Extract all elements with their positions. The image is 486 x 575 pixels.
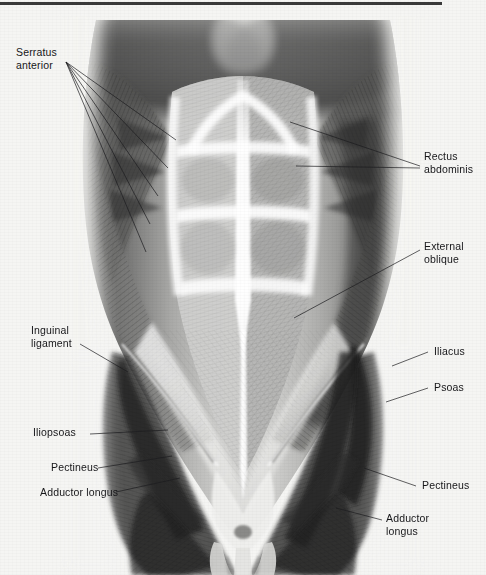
label-adductor-longus-right: Adductor longus — [386, 512, 429, 537]
label-external-oblique: External oblique — [424, 240, 464, 265]
label-pectineus-right: Pectineus — [422, 479, 469, 492]
label-inguinal-ligament-line1: Inguinal — [31, 324, 72, 337]
header-rule — [0, 2, 442, 5]
label-external-oblique-line2: oblique — [424, 253, 464, 266]
label-adductor-longus-right-line1: Adductor — [386, 512, 429, 525]
label-serratus-anterior-line2: anterior — [16, 59, 57, 72]
label-inguinal-ligament: Inguinal ligament — [31, 324, 72, 349]
label-rectus-abdominis: Rectus abdominis — [424, 150, 473, 175]
label-adductor-longus-right-line2: longus — [386, 525, 429, 538]
label-rectus-abdominis-line2: abdominis — [424, 163, 473, 176]
label-adductor-longus-left: Adductor longus — [40, 486, 118, 499]
label-rectus-abdominis-line1: Rectus — [424, 150, 473, 163]
label-external-oblique-line1: External — [424, 240, 464, 253]
label-iliacus: Iliacus — [434, 345, 465, 358]
label-psoas: Psoas — [434, 381, 464, 394]
illustration-page: Serratus anterior Rectus abdominis Exter… — [0, 0, 486, 575]
label-serratus-anterior: Serratus anterior — [16, 46, 57, 71]
label-serratus-anterior-line1: Serratus — [16, 46, 57, 59]
label-inguinal-ligament-line2: ligament — [31, 337, 72, 350]
label-iliopsoas: Iliopsoas — [33, 426, 76, 439]
label-pectineus-left: Pectineus — [51, 461, 98, 474]
